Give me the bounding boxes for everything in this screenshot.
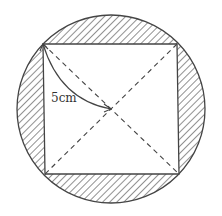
geometry-diagram: 5cm [0, 0, 222, 216]
length-label: 5cm [51, 91, 77, 105]
